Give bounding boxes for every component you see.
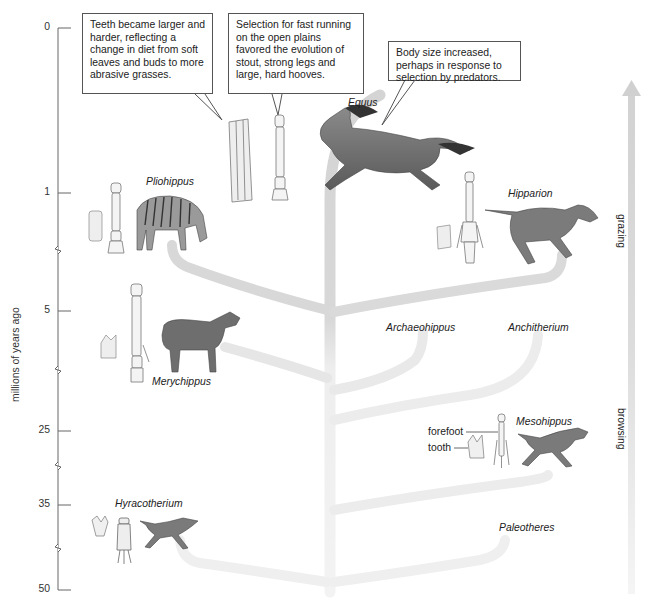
pliohippus-tooth-icon <box>89 211 102 241</box>
taxon-archaeohippus: Archaeohippus <box>386 322 455 333</box>
mesohippus-forefoot-icon <box>494 414 509 468</box>
equus-tooth-icon <box>229 119 252 202</box>
taxon-merychippus: Merychippus <box>152 376 211 387</box>
axis-title: millions of years ago <box>10 307 21 402</box>
time-axis <box>55 28 71 590</box>
forefoot-label: forefoot <box>428 426 463 437</box>
merychippus-tooth-icon <box>101 335 116 358</box>
tick-label-25: 25 <box>30 424 50 435</box>
diet-label-browsing: browsing <box>616 408 627 450</box>
pliohippus-forefoot-icon <box>108 183 124 253</box>
tick-label-0: 0 <box>30 21 50 32</box>
mesohippus-horse-icon <box>518 428 588 467</box>
mesohippus-tooth-icon <box>468 435 484 458</box>
callout-legs: Selection for fast running on the open p… <box>228 13 364 94</box>
tick-label-50: 50 <box>30 583 50 594</box>
callout-body: Body size increased, perhaps in response… <box>388 41 521 81</box>
taxon-anchitherium: Anchitherium <box>508 322 569 333</box>
taxon-pliohippus: Pliohippus <box>146 176 194 187</box>
tick-label-5: 5 <box>30 304 50 315</box>
hipparion-forefoot-icon <box>457 172 483 263</box>
merychippus-horse-icon <box>162 312 240 372</box>
taxon-equus: Equus <box>348 97 377 108</box>
tick-label-1: 1 <box>30 186 50 197</box>
equus-forefoot-icon <box>272 115 288 200</box>
hyracotherium-forefoot-icon <box>117 518 131 564</box>
taxon-mesohippus: Mesohippus <box>516 416 572 427</box>
taxon-paleotheres: Paleotheres <box>499 522 554 533</box>
callout-teeth: Teeth became larger and harder, reflecti… <box>82 13 213 94</box>
diet-arrow <box>622 80 641 594</box>
tick-label-35: 35 <box>30 498 50 509</box>
taxon-hipparion: Hipparion <box>508 188 552 199</box>
hyracotherium-tooth-icon <box>92 516 108 536</box>
merychippus-forefoot-icon <box>131 284 149 382</box>
taxon-hyracotherium: Hyracotherium <box>115 498 183 509</box>
tooth-label: tooth <box>428 442 451 453</box>
hyracotherium-horse-icon <box>140 518 198 549</box>
hipparion-tooth-icon <box>437 225 451 249</box>
hipparion-horse-icon <box>485 205 598 264</box>
equus-horse-icon <box>320 105 475 190</box>
diet-label-grazing: grazing <box>616 214 627 248</box>
horse-evolution-diagram: 0 1 5 25 35 50 millions of years ago Tee… <box>0 0 647 604</box>
